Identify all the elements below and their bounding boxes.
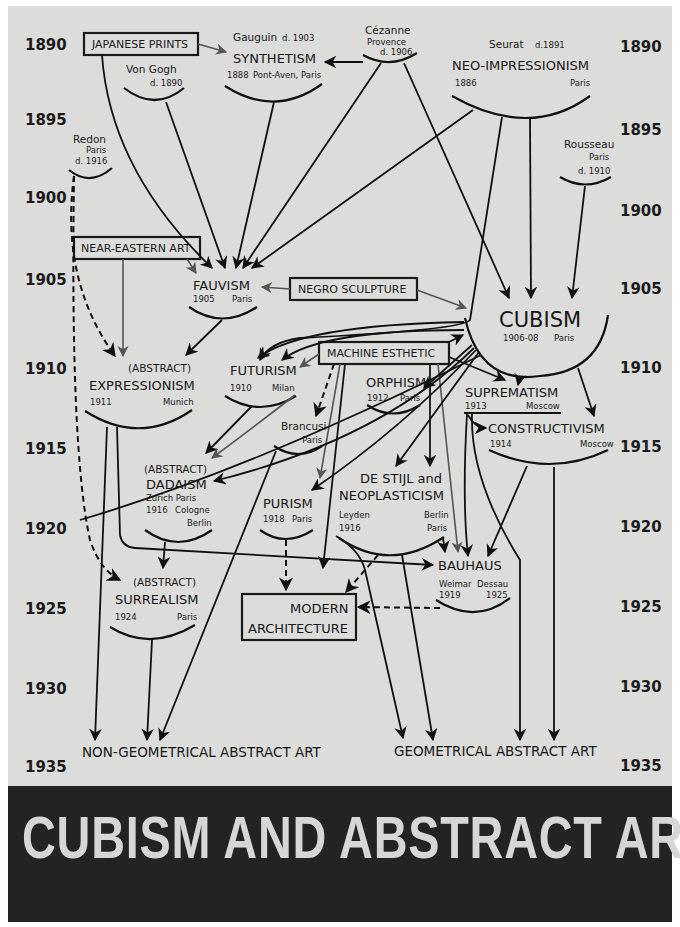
svg-text:DE STIJL and: DE STIJL and — [360, 471, 442, 486]
year-label: 1910 — [620, 359, 662, 377]
svg-text:Paris: Paris — [232, 294, 253, 304]
node-de-stijl: DE STIJL and NEOPLASTICISM Leyden 1916 B… — [339, 471, 449, 555]
timeline-left: 1890 1895 1900 1905 1910 1915 1920 1925 … — [25, 36, 67, 776]
year-label: 1915 — [620, 438, 662, 456]
node-suprematism: SUPREMATISM 1913 Moscow — [464, 385, 561, 413]
svg-text:Paris: Paris — [86, 145, 107, 155]
svg-text:NEAR-EASTERN ART: NEAR-EASTERN ART — [81, 242, 191, 255]
svg-text:FUTURISM: FUTURISM — [230, 363, 297, 378]
svg-text:Von Gogh: Von Gogh — [126, 63, 177, 75]
node-rousseau: Rousseau Paris d. 1910 — [560, 138, 614, 185]
node-cezanne: Cézanne Provence d. 1906 — [363, 24, 417, 62]
svg-text:Provence: Provence — [367, 37, 406, 47]
svg-text:Paris: Paris — [292, 514, 313, 524]
svg-text:Rousseau: Rousseau — [564, 138, 614, 150]
svg-text:d. 1890: d. 1890 — [150, 78, 182, 88]
svg-text:Paris: Paris — [177, 612, 198, 622]
svg-text:Cézanne: Cézanne — [365, 24, 411, 36]
year-label: 1900 — [620, 202, 662, 220]
svg-text:NEOPLASTICISM: NEOPLASTICISM — [339, 488, 444, 503]
node-futurism: FUTURISM 1910 Milan — [225, 363, 297, 407]
year-label: 1905 — [25, 271, 67, 289]
node-synthetism: Gauguin d. 1903 SYNTHETISM 1888 Pont-Ave… — [225, 31, 322, 102]
svg-text:1918: 1918 — [263, 514, 285, 524]
svg-text:CUBISM: CUBISM — [499, 308, 581, 332]
svg-text:Paris: Paris — [570, 78, 591, 88]
book-title: CUBISM AND ABSTRACT ART — [22, 808, 521, 868]
svg-text:SUPREMATISM: SUPREMATISM — [465, 385, 558, 400]
svg-text:1910: 1910 — [230, 383, 252, 393]
node-surrealism: (ABSTRACT) SURREALISM 1924 Paris — [110, 576, 198, 639]
svg-text:Paris: Paris — [589, 152, 610, 162]
timeline-right: 1890 1895 1900 1905 1910 1915 1920 1925 … — [620, 38, 662, 775]
svg-text:NEO-IMPRESSIONISM: NEO-IMPRESSIONISM — [452, 58, 589, 73]
svg-text:PURISM: PURISM — [263, 496, 313, 511]
year-label: 1890 — [25, 36, 67, 54]
machine-esthetic-box: MACHINE ESTHETIC — [319, 342, 449, 364]
node-redon: Redon Paris d. 1916 — [69, 133, 112, 178]
svg-text:Milan: Milan — [272, 383, 295, 393]
svg-text:Leyden: Leyden — [339, 510, 370, 520]
svg-text:Weimar: Weimar — [439, 579, 472, 589]
svg-text:1906-08: 1906-08 — [503, 333, 539, 343]
svg-text:Zurich Paris: Zurich Paris — [146, 493, 197, 503]
year-label: 1905 — [620, 280, 662, 298]
svg-text:1911: 1911 — [90, 397, 112, 407]
svg-text:Pont-Aven, Paris: Pont-Aven, Paris — [253, 70, 322, 80]
svg-text:Berlin: Berlin — [187, 518, 212, 528]
year-label: 1925 — [25, 600, 67, 618]
year-label: 1920 — [620, 518, 662, 536]
year-label: 1930 — [620, 678, 662, 696]
node-neo-impressionism: Seurat d.1891 NEO-IMPRESSIONISM 1886 Par… — [452, 38, 591, 118]
svg-text:d. 1916: d. 1916 — [75, 156, 107, 166]
svg-text:1925: 1925 — [486, 590, 508, 600]
svg-text:1888: 1888 — [227, 70, 249, 80]
year-label: 1895 — [25, 111, 67, 129]
svg-text:Berlin: Berlin — [424, 510, 449, 520]
art-movements-diagram: 1890 1895 1900 1905 1910 1915 1920 1925 … — [0, 0, 680, 790]
svg-text:1905: 1905 — [193, 294, 215, 304]
year-label: 1900 — [25, 189, 67, 207]
svg-text:1919: 1919 — [439, 590, 461, 600]
node-purism: PURISM 1918 Paris — [260, 496, 313, 539]
svg-text:ARCHITECTURE: ARCHITECTURE — [248, 621, 348, 636]
japanese-prints-box: JAPANESE PRINTS — [84, 33, 198, 55]
year-label: 1935 — [620, 757, 662, 775]
svg-text:JAPANESE PRINTS: JAPANESE PRINTS — [91, 38, 188, 51]
year-label: 1935 — [25, 758, 67, 776]
year-label: 1895 — [620, 121, 662, 139]
svg-text:d.1891: d.1891 — [535, 40, 565, 50]
svg-text:Paris: Paris — [427, 523, 448, 533]
negro-sculpture-box: NEGRO SCULPTURE — [290, 278, 417, 300]
svg-text:ORPHISM: ORPHISM — [366, 375, 426, 390]
svg-text:d. 1906: d. 1906 — [380, 47, 412, 57]
svg-text:1916: 1916 — [146, 505, 168, 515]
year-label: 1920 — [25, 520, 67, 538]
svg-text:NEGRO SCULPTURE: NEGRO SCULPTURE — [298, 283, 406, 296]
year-label: 1925 — [620, 598, 662, 616]
svg-text:(ABSTRACT): (ABSTRACT) — [128, 362, 191, 374]
svg-text:Moscow: Moscow — [580, 439, 614, 449]
svg-text:d. 1910: d. 1910 — [578, 166, 610, 176]
svg-text:EXPRESSIONISM: EXPRESSIONISM — [89, 378, 195, 393]
node-dadaism: (ABSTRACT) DADAISM Zurich Paris 1916 Col… — [144, 463, 212, 542]
svg-text:(ABSTRACT): (ABSTRACT) — [144, 463, 207, 475]
svg-text:1886: 1886 — [455, 78, 477, 88]
svg-text:1924: 1924 — [115, 612, 137, 622]
node-brancusi: Brancusi Paris — [274, 420, 326, 454]
node-van-gogh: Von Gogh d. 1890 — [124, 63, 184, 100]
year-label: 1910 — [25, 360, 67, 378]
node-cubism: CUBISM 1906-08 Paris — [465, 308, 608, 377]
svg-text:Redon: Redon — [73, 133, 106, 145]
year-label: 1915 — [25, 440, 67, 458]
node-bauhaus: BAUHAUS Weimar Dessau 1919 1925 — [436, 558, 510, 612]
svg-text:MODERN: MODERN — [290, 601, 348, 616]
node-expressionism: (ABSTRACT) EXPRESSIONISM 1911 Munich — [85, 362, 195, 428]
svg-text:1913: 1913 — [465, 401, 487, 411]
svg-text:(ABSTRACT): (ABSTRACT) — [133, 576, 196, 588]
svg-text:CONSTRUCTIVISM: CONSTRUCTIVISM — [488, 421, 605, 436]
svg-text:FAUVISM: FAUVISM — [193, 278, 250, 293]
node-constructivism: CONSTRUCTIVISM 1914 Moscow — [488, 421, 614, 464]
svg-text:Munich: Munich — [163, 397, 194, 407]
svg-text:Paris: Paris — [554, 333, 575, 343]
